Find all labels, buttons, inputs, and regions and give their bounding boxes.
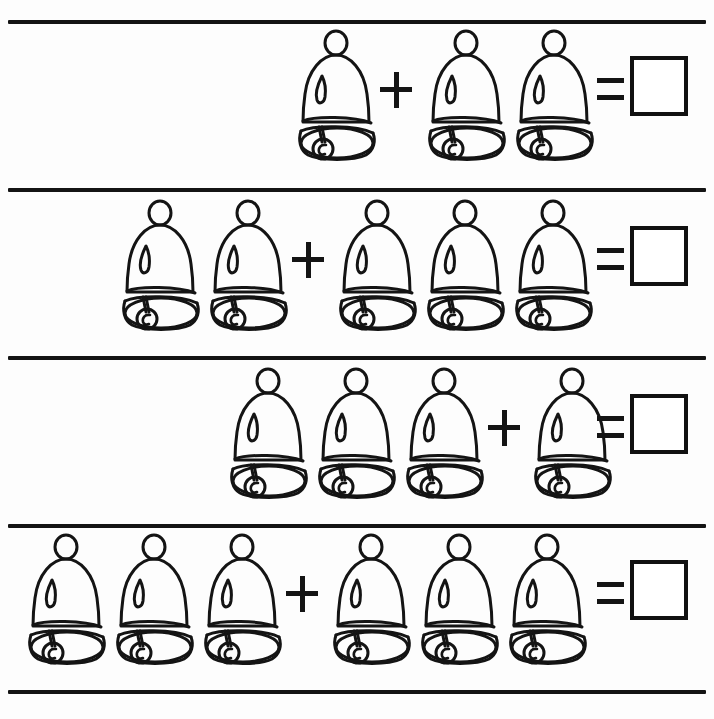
handle-ring-part [345,369,367,393]
clapper-mark-part [536,315,543,325]
skirt-part [320,469,395,498]
bell-icon [400,368,488,498]
answer-box[interactable] [630,394,688,454]
clapper-mark-part [354,649,361,659]
skirt-part [30,635,105,664]
bell-icon [116,200,204,330]
rule-line-1 [8,188,706,192]
bell-icon [415,534,503,664]
handle-ring-part [325,31,347,55]
bell-icon [327,534,415,664]
bell-icon [333,200,421,330]
rule-line-bottom [8,690,706,694]
highlight-part [534,76,543,103]
answer-box[interactable] [630,560,688,620]
plus-operator-icon [380,72,412,108]
skirt-part [429,301,504,330]
equals-bar-top [597,416,624,421]
skirt-mouth-part [233,466,305,496]
skirt-part [232,469,307,498]
skirt-part [118,635,193,664]
skirt-mouth-part [342,298,414,328]
skirt-part [430,131,505,160]
dome-part [432,225,498,292]
skirt-part [408,469,483,498]
clapper-mark-part [251,483,258,493]
bell-icon [422,30,510,160]
clapper-mark-part [427,483,434,493]
plus-operator-icon [488,410,520,446]
clapper-mark-part [319,145,326,155]
clapper-mark-part [339,483,346,493]
handle-ring-part [55,535,77,559]
skirt-mouth-part [518,298,590,328]
highlight-part [248,414,257,441]
skirt-mouth-part [301,128,373,158]
problem-row [0,200,714,340]
dome-part [411,393,477,460]
highlight-part [357,246,366,273]
skirt-part [518,131,593,160]
bell-icon [510,30,598,160]
clapper-mark-part [137,649,144,659]
dome-part [303,55,369,122]
dome-part [539,393,605,460]
highlight-part [351,580,360,607]
skirt-part [335,635,410,664]
plus-horizontal-stroke [488,425,520,430]
skirt-part [517,301,592,330]
answer-box[interactable] [630,226,688,286]
equals-bar-top [597,78,624,83]
clapper-mark-part [442,649,449,659]
rule-line-top [8,20,706,24]
skirt-mouth-part [321,466,393,496]
equals-bar-top [597,248,624,253]
skirt-mouth-part [409,466,481,496]
clapper-mark-part [449,145,456,155]
handle-ring-part [231,535,253,559]
handle-ring-part [257,369,279,393]
dome-part [433,55,499,122]
skirt-part [206,635,281,664]
clapper-mark-part [448,315,455,325]
clapper-mark-part [537,145,544,155]
highlight-part [316,76,325,103]
dome-part [33,559,99,626]
plus-operator-icon [286,576,318,612]
dome-part [235,393,301,460]
worksheet-page [0,0,714,719]
skirt-mouth-part [512,632,584,662]
plus-horizontal-stroke [380,87,412,92]
handle-ring-part [454,201,476,225]
handle-ring-part [448,535,470,559]
skirt-mouth-part [336,632,408,662]
handle-ring-part [149,201,171,225]
clapper-mark-part [225,649,232,659]
bell-icon [421,200,509,330]
highlight-part [134,580,143,607]
skirt-part [536,469,611,498]
dome-part [426,559,492,626]
equals-operator-icon [597,78,624,102]
handle-ring-part [455,31,477,55]
handle-ring-part [543,31,565,55]
highlight-part [533,246,542,273]
answer-box[interactable] [630,56,688,116]
plus-horizontal-stroke [292,257,324,262]
highlight-part [140,246,149,273]
bell-icon [509,200,597,330]
skirt-part [124,301,199,330]
highlight-part [527,580,536,607]
skirt-part [341,301,416,330]
highlight-part [222,580,231,607]
equals-bar-bottom [597,599,624,604]
plus-horizontal-stroke [286,591,318,596]
clapper-mark-part [49,649,56,659]
skirt-mouth-part [431,128,503,158]
skirt-mouth-part [424,632,496,662]
highlight-part [439,580,448,607]
dome-part [209,559,275,626]
problem-row [0,534,714,674]
bell-icon [503,534,591,664]
clapper-mark-part [143,315,150,325]
